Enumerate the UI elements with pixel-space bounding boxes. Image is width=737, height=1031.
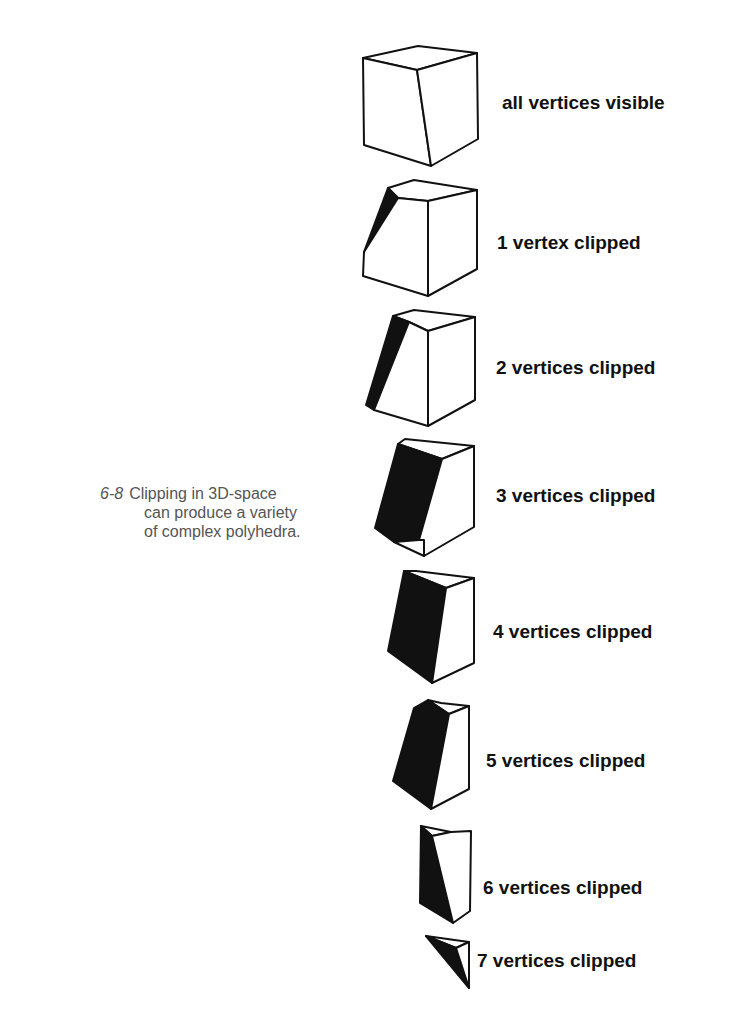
cube-shape [363,46,478,166]
label-7-clipped: 7 vertices clipped [477,950,636,972]
figure-number: 6-8 [100,485,123,502]
polyhedron-2-clipped [366,310,475,426]
label-1-clipped: 1 vertex clipped [497,232,641,254]
figure-caption: 6-8Clipping in 3D-space can produce a va… [100,484,340,541]
polyhedron-5-clipped [393,700,469,809]
label-2-clipped: 2 vertices clipped [496,357,655,379]
label-6-clipped: 6 vertices clipped [483,877,642,899]
polyhedron-3-clipped [375,439,474,556]
label-3-clipped: 3 vertices clipped [496,485,655,507]
label-4-clipped: 4 vertices clipped [493,621,652,643]
caption-line-2: can produce a variety [100,503,340,522]
polyhedron-7-clipped [426,936,469,988]
polyhedron-1-clipped [363,180,477,296]
label-all-visible: all vertices visible [502,92,665,114]
label-5-clipped: 5 vertices clipped [486,750,645,772]
caption-line-3: of complex polyhedra. [100,522,340,541]
polyhedron-4-clipped [388,571,474,683]
polyhedron-6-clipped [420,826,471,923]
caption-line-1: Clipping in 3D-space [129,485,277,502]
